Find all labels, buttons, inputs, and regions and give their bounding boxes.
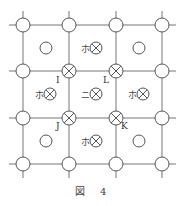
label-l: L [103, 76, 109, 85]
conductor-circle-icon [133, 42, 145, 54]
conductor-circle-icon [16, 18, 30, 32]
label-k: K [121, 122, 128, 131]
label-j: J [56, 122, 60, 131]
conductor-circle-icon [62, 157, 76, 171]
conductor-circle-icon [109, 18, 123, 32]
label-i: I [56, 76, 60, 85]
conductor-circle-icon [155, 18, 169, 32]
cell-prefix-label: ホ [35, 90, 44, 100]
conductor-circle-icon [155, 111, 169, 125]
cell-prefix-label: ホ [81, 44, 90, 54]
figure-caption: 図 4 [0, 183, 187, 198]
conductor-circle-icon [16, 111, 30, 125]
conductor-circle-icon [109, 157, 123, 171]
cell-prefix-label: ホ [128, 90, 137, 100]
conductor-circle-icon [16, 157, 30, 171]
conductor-grid-diagram: ホホニホホ [0, 0, 187, 206]
cell-prefix-label: ホ [81, 137, 90, 147]
conductor-circle-icon [40, 42, 52, 54]
conductor-circle-icon [133, 135, 145, 147]
conductor-circle-icon [155, 157, 169, 171]
conductor-circle-icon [62, 18, 76, 32]
conductor-circle-icon [155, 64, 169, 78]
cell-prefix-label: ニ [81, 90, 90, 100]
conductor-circle-icon [40, 135, 52, 147]
conductor-circle-icon [16, 64, 30, 78]
